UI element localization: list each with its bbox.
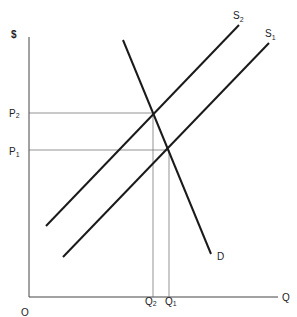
y-axis-label: $ — [11, 29, 17, 40]
supply-demand-diagram: $ Q O S2 S1 D P2 P1 Q2 Q1 — [0, 0, 297, 317]
d-label: D — [217, 251, 224, 262]
p2-label: P2 — [9, 108, 20, 119]
demand-curve-d — [123, 40, 211, 254]
x-axis-label: Q — [282, 292, 290, 303]
p1-label: P1 — [9, 146, 20, 158]
q1-label: Q1 — [165, 296, 177, 307]
q2-label: Q2 — [145, 296, 157, 307]
s1-label: S1 — [265, 28, 276, 41]
s2-label: S2 — [233, 10, 244, 23]
origin-label: O — [21, 307, 29, 317]
supply-curve-s2 — [46, 25, 239, 226]
